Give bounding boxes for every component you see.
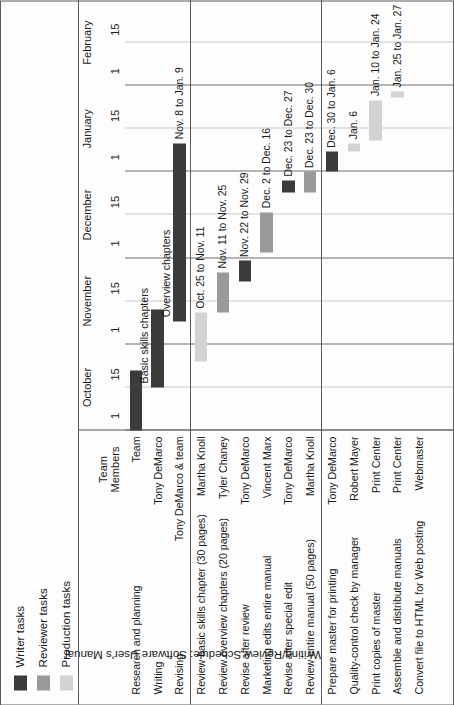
task-label: Assemble and distribute manuals — [387, 510, 409, 694]
task-row[interactable]: Convert file to HTML for Web posting — [408, 508, 430, 704]
gantt-bar-date-label: Nov. 8 to Jan. 9 — [174, 67, 185, 139]
axis-month: February115 — [81, 0, 125, 85]
legend-item-production: Production tasks — [56, 0, 76, 690]
axis-tick-label: 1 — [109, 412, 122, 418]
axis-tick-label: 1 — [109, 326, 122, 332]
task-label: Revise after review — [234, 510, 256, 694]
gantt-bar[interactable] — [304, 171, 317, 191]
team-member-row: Tony DeMarco — [278, 430, 300, 508]
team-member-row: Tony DeMarco — [321, 430, 343, 508]
gantt-bar[interactable] — [391, 91, 404, 97]
task-label: Review entire manual (50 pages) — [299, 510, 321, 694]
legend-swatch-reviewer — [37, 675, 50, 690]
gantt-bar-date-label: Nov. 11 to Nov. 25 — [217, 184, 228, 268]
task-row[interactable]: Revise after special edit — [278, 508, 300, 704]
gantt-bar[interactable] — [217, 272, 230, 312]
gantt-bar[interactable] — [173, 143, 186, 321]
task-name-column: Research and planningWritingRevisingRevi… — [79, 508, 453, 704]
task-row[interactable]: Research and planning — [125, 508, 147, 704]
axis-tick-label: 1 — [109, 68, 122, 74]
team-member-row: Tony DeMarco — [234, 430, 256, 508]
gantt-bar[interactable] — [326, 151, 339, 171]
team-member-label: Robert Mayer — [343, 436, 365, 508]
gantt-bar-date-label: Dec. 2 to Dec. 16 — [261, 127, 272, 207]
gantt-bar[interactable] — [260, 212, 273, 252]
axis-tick-label: 15 — [109, 282, 122, 294]
task-row[interactable]: Quality-control check by manager — [343, 508, 365, 704]
axis-month: December115 — [81, 171, 125, 257]
task-row[interactable]: Revise after review — [234, 508, 256, 704]
task-label: Review basic skills chapter (30 pages) — [190, 510, 212, 694]
gantt-bar-date-label: Jan. 10 to Jan. 24 — [370, 13, 381, 96]
gantt-bar[interactable] — [239, 260, 252, 280]
axis-tick-group: 115 — [109, 258, 122, 344]
axis-month-name: October — [81, 344, 94, 430]
task-row[interactable]: Print copies of master — [365, 508, 387, 704]
gridline-midmonth — [125, 386, 453, 387]
task-label: Review overview chapters (20 pages) — [212, 510, 234, 694]
legend-label-reviewer: Reviewer tasks — [37, 588, 49, 667]
team-member-label: Tony DeMarco — [321, 436, 343, 508]
timeline-axis-header: October115November115December115January1… — [79, 0, 125, 430]
axis-tick-group: 115 — [109, 85, 122, 171]
team-member-label: Webmaster — [408, 436, 430, 508]
task-row[interactable]: Review entire manual (50 pages) — [299, 508, 321, 704]
team-member-label: Martha Knoll — [190, 436, 212, 508]
team-member-row: Tony DeMarco & team — [169, 430, 191, 508]
legend: Writer tasks Reviewer tasks Production t… — [1, 0, 79, 704]
timeline-column: October115November115December115January1… — [79, 0, 453, 430]
task-label: Marketing edits entire manual — [256, 510, 278, 694]
task-column-header — [79, 508, 125, 704]
gantt-bar-date-label: Dec. 30 to Jan. 6 — [326, 69, 337, 148]
team-member-label: Tony DeMarco — [234, 436, 256, 508]
axis-tick-label: 1 — [109, 154, 122, 160]
team-member-row: Tony DeMarco — [147, 430, 169, 508]
legend-label-writer: Writer tasks — [14, 605, 26, 667]
axis-month: November115 — [81, 258, 125, 344]
task-label: Revise after special edit — [278, 510, 300, 694]
gantt-inline-label: Overview chapters — [161, 229, 172, 317]
gridline-midmonth — [125, 41, 453, 42]
team-member-row: Martha Knoll — [190, 430, 212, 508]
axis-tick-label: 15 — [109, 109, 122, 121]
team-member-row: Martha Knoll — [299, 430, 321, 508]
gantt-bar-date-label: Oct. 25 to Nov. 11 — [195, 226, 206, 308]
legend-swatch-production — [60, 675, 73, 690]
axis-month: January115 — [81, 85, 125, 171]
task-row[interactable]: Writing — [147, 508, 169, 704]
gantt-bar-date-label: Dec. 23 to Dec. 30 — [304, 81, 315, 167]
team-member-label: Print Center — [387, 436, 409, 508]
gantt-inline-label: Basic skills chapters — [139, 288, 150, 383]
task-row[interactable]: Assemble and distribute manuals — [387, 508, 409, 704]
axis-month-name: January — [81, 85, 94, 171]
team-member-row: Tyler Chaney — [212, 430, 234, 508]
task-row[interactable]: Review basic skills chapter (30 pages) — [190, 508, 212, 704]
team-member-row: Team — [125, 430, 147, 508]
team-member-label: Tony DeMarco — [278, 436, 300, 508]
task-row[interactable]: Review overview chapters (20 pages) — [212, 508, 234, 704]
task-row[interactable]: Marketing edits entire manual — [256, 508, 278, 704]
axis-tick-group: 115 — [109, 344, 122, 430]
gantt-bar-date-label: Jan. 25 to Jan. 27 — [392, 4, 403, 87]
task-row[interactable]: Prepare master for printing — [321, 508, 343, 704]
gantt-bar[interactable] — [348, 143, 361, 152]
gantt-bar[interactable] — [151, 309, 164, 387]
legend-label-production: Production tasks — [60, 580, 72, 667]
team-member-row: Webmaster — [408, 430, 430, 508]
gantt-bar-date-label: Nov. 22 to Nov. 29 — [239, 172, 250, 257]
timeline-plot: Basic skills chaptersNov. 8 to Jan. 9Ove… — [125, 0, 453, 430]
legend-item-writer: Writer tasks — [10, 0, 30, 690]
team-column-header: Team Members — [79, 430, 125, 508]
axis-month-name: November — [81, 258, 94, 344]
task-label: Quality-control check by manager — [343, 510, 365, 694]
gantt-bar[interactable] — [369, 100, 382, 140]
gantt-bar[interactable] — [195, 312, 208, 361]
gridline-month — [125, 429, 453, 430]
gantt-bar[interactable] — [282, 180, 295, 191]
team-member-label: Martha Knoll — [299, 436, 321, 508]
legend-swatch-writer — [14, 675, 27, 690]
group-separator — [321, 0, 322, 704]
team-member-row: Print Center — [387, 430, 409, 508]
axis-tick-label: 15 — [109, 368, 122, 380]
axis-month-name: February — [81, 0, 94, 85]
